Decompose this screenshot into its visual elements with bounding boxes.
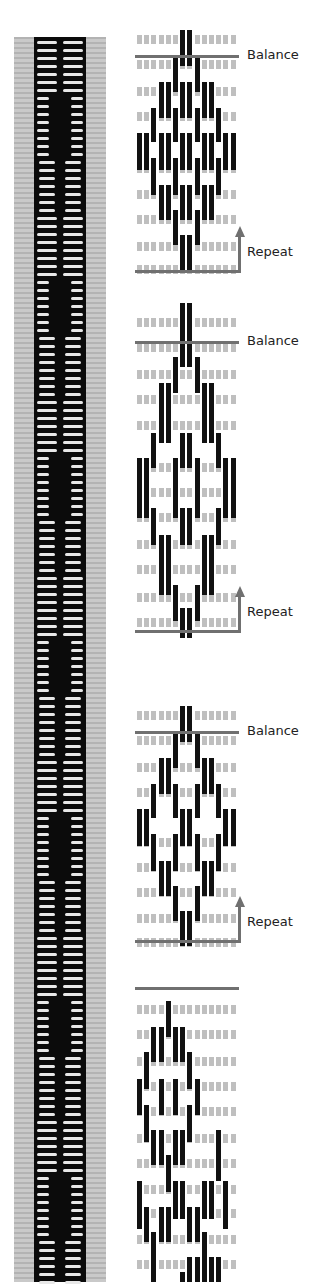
light-thread-cell — [223, 736, 228, 745]
band-light-thread — [63, 225, 83, 228]
light-thread-cell — [223, 1134, 228, 1143]
band-light-thread — [39, 169, 55, 172]
woven-band-photo — [14, 37, 106, 1282]
band-light-thread — [37, 1009, 49, 1012]
band-light-thread — [71, 481, 83, 484]
repeat-baseline — [135, 940, 241, 943]
dark-thread-float — [159, 1130, 164, 1165]
dark-thread-float — [173, 784, 178, 818]
dark-thread-float — [216, 784, 221, 818]
band-light-thread — [63, 425, 83, 428]
dark-thread-float — [187, 508, 192, 545]
dark-thread-float — [187, 30, 192, 66]
band-light-thread — [63, 41, 83, 44]
light-thread-cell — [137, 87, 142, 96]
light-thread-cell — [159, 914, 164, 923]
dark-thread-float — [173, 1079, 178, 1115]
band-light-thread — [37, 273, 57, 276]
band-light-thread — [37, 481, 49, 484]
dark-thread-float — [195, 886, 200, 921]
light-thread-cell — [202, 1005, 207, 1014]
band-light-thread — [37, 249, 57, 252]
band-light-thread — [65, 697, 81, 700]
band-light-thread — [65, 1257, 81, 1260]
band-light-thread — [65, 1105, 81, 1108]
light-thread-cell — [231, 421, 236, 430]
band-light-thread — [71, 689, 83, 692]
band-light-thread — [37, 625, 57, 628]
band-light-thread — [37, 281, 49, 284]
light-thread-cell — [144, 370, 149, 379]
light-thread-cell — [195, 343, 200, 352]
repeat-label: Repeat — [247, 914, 293, 929]
band-light-thread — [63, 993, 83, 996]
band-light-thread — [37, 961, 57, 964]
band-light-thread — [37, 681, 49, 684]
band-light-thread — [71, 121, 83, 124]
band-light-thread — [63, 969, 83, 972]
light-thread-cell — [151, 370, 156, 379]
light-thread-cell — [173, 318, 178, 327]
band-light-thread — [37, 601, 57, 604]
dark-thread-float — [195, 734, 200, 768]
dark-thread-float — [173, 58, 178, 92]
band-light-thread — [71, 841, 83, 844]
band-light-thread — [37, 1025, 49, 1028]
band-light-thread — [37, 153, 49, 156]
band-light-thread — [71, 1225, 83, 1228]
dark-thread-float — [180, 133, 185, 170]
band-light-thread — [63, 273, 83, 276]
band-light-thread — [71, 865, 83, 868]
light-thread-cell — [144, 540, 149, 549]
band-light-thread — [65, 369, 81, 372]
light-thread-cell — [216, 370, 221, 379]
light-thread-cell — [231, 242, 236, 251]
band-light-thread — [37, 497, 49, 500]
light-thread-cell — [216, 1005, 221, 1014]
dark-thread-float — [166, 133, 171, 170]
band-light-thread — [65, 161, 81, 164]
band-light-thread — [65, 881, 81, 884]
dark-thread-float — [151, 108, 156, 142]
light-thread-cell — [223, 763, 228, 772]
band-light-thread — [71, 1001, 83, 1004]
band-light-thread — [37, 801, 57, 804]
light-thread-cell — [223, 1082, 228, 1091]
band-light-thread — [65, 1057, 81, 1060]
band-light-thread — [71, 137, 83, 140]
band-light-thread — [39, 929, 55, 932]
light-thread-cell — [180, 565, 185, 574]
band-light-thread — [39, 361, 55, 364]
band-light-thread — [37, 585, 57, 588]
band-light-thread — [37, 761, 57, 764]
light-thread-cell — [231, 60, 236, 69]
band-light-thread — [37, 1201, 49, 1204]
band-light-thread — [71, 297, 83, 300]
light-thread-cell — [180, 395, 185, 404]
light-thread-cell — [166, 618, 171, 627]
band-light-thread — [71, 505, 83, 508]
light-thread-cell — [195, 540, 200, 549]
light-thread-cell — [144, 87, 149, 96]
light-thread-cell — [231, 618, 236, 627]
balance-label: Balance — [247, 47, 299, 62]
band-light-thread — [37, 1169, 57, 1172]
band-light-thread — [39, 369, 55, 372]
band-light-thread — [63, 57, 83, 60]
light-thread-cell — [223, 618, 228, 627]
dark-thread-float — [202, 1232, 207, 1282]
dark-thread-float — [180, 1027, 185, 1062]
band-light-thread — [65, 1265, 81, 1268]
light-thread-cell — [151, 215, 156, 224]
light-thread-cell — [137, 1057, 142, 1066]
band-light-thread — [37, 1129, 57, 1132]
band-light-thread — [37, 1225, 49, 1228]
light-thread-cell — [216, 593, 221, 602]
band-light-thread — [39, 745, 55, 748]
band-light-thread — [37, 49, 57, 52]
light-thread-cell — [151, 888, 156, 897]
band-light-thread — [37, 777, 57, 780]
band-light-thread — [71, 641, 83, 644]
balance-label: Balance — [247, 723, 299, 738]
band-light-thread — [39, 881, 55, 884]
